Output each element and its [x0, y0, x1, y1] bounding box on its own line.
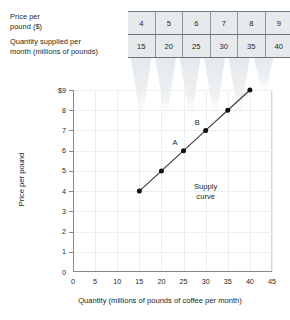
- data-point-marker: [137, 189, 142, 194]
- supply-curve-caption-line1: Supply: [181, 182, 231, 192]
- point-b-label: B: [195, 118, 200, 127]
- supply-curve-line: [139, 90, 250, 191]
- data-point-marker: [203, 128, 208, 133]
- supply-curve-chart: 051015202530354045 012345678$9 A B Suppl…: [0, 0, 290, 320]
- supply-curve-series: [0, 0, 290, 320]
- data-point-marker: [159, 168, 164, 173]
- data-point-marker: [225, 108, 230, 113]
- data-point-marker: [247, 88, 252, 93]
- x-axis-title: Quantity (millions of pounds of coffee p…: [40, 296, 280, 305]
- supply-curve-caption-line2: curve: [181, 192, 231, 202]
- data-point-marker: [181, 148, 186, 153]
- point-a-label: A: [173, 138, 178, 147]
- y-axis-title: Price per pound: [17, 130, 26, 230]
- supply-curve-caption: Supply curve: [181, 182, 231, 201]
